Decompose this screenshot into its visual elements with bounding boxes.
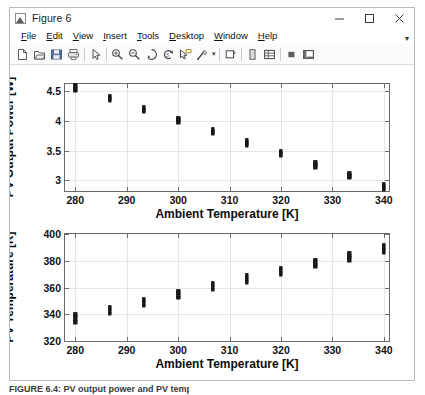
menu-item-edit-rest: dit [53,30,63,41]
zoom-out-icon[interactable] [126,46,143,63]
menu-item-desktop[interactable]: Desktop [164,30,209,42]
data-point-marker [279,149,282,152]
print-figure-icon[interactable] [65,46,82,63]
gridline-vertical [281,84,282,191]
menu-item-tools-rest: ools [142,30,159,41]
axes-pv-temperature[interactable]: PV Temperature [K] Ambient Temperature [… [64,233,390,342]
y-axis-tick [385,234,389,235]
x-axis-tick [178,234,179,238]
x-axis-tick-label: 300 [169,194,187,206]
data-point-marker [348,252,351,255]
y-axis-tick [385,288,389,289]
x-axis-tick-label: 280 [67,194,85,206]
data-point-marker [279,266,282,269]
data-point-marker [314,258,317,261]
y-axis-tick [65,151,69,152]
menu-item-edit[interactable]: Edit [41,30,67,42]
x-axis-tick-label: 340 [375,344,393,356]
gridline-vertical [75,84,76,191]
maximize-button[interactable] [354,8,384,28]
y-axis-tick [65,121,69,122]
axes-top-xlabel: Ambient Temperature [K] [65,207,389,221]
menu-item-insert[interactable]: Insert [98,30,132,42]
save-figure-icon[interactable] [48,46,65,63]
menu-item-desktop-mnemonic: D [169,30,176,41]
figure-window: Figure 6 File Edit View Insert Tools Des… [9,7,415,381]
menu-item-view[interactable]: View [68,30,98,42]
y-axis-tick [385,261,389,262]
gridline-horizontal [65,288,389,289]
axes-bottom-xlabel: Ambient Temperature [K] [65,357,389,371]
chevron-down-icon[interactable]: ▾ [211,46,217,63]
y-axis-tick [65,234,69,235]
gridline-vertical [281,234,282,341]
x-axis-tick [332,187,333,191]
gridline-vertical [230,234,231,341]
gridline-horizontal [65,151,389,152]
edit-plot-pointer-icon[interactable] [87,46,104,63]
figure-caption-clipped: FIGURE 6.4: PV output power and PV tempe… [9,385,189,395]
x-axis-tick-label: 290 [118,344,136,356]
gridline-vertical [332,84,333,191]
menu-item-file-rest: ile [27,30,37,41]
x-axis-tick-label: 310 [221,344,239,356]
gridline-horizontal [65,180,389,181]
x-axis-tick [281,234,282,238]
brush-select-icon[interactable] [194,46,211,63]
window-title: Figure 6 [32,12,71,24]
y-axis-tick [385,91,389,92]
close-button[interactable] [384,8,414,28]
new-figure-icon[interactable] [14,46,31,63]
zoom-in-icon[interactable] [109,46,126,63]
x-axis-tick [384,84,385,88]
axes-top-ylabel: PV Output Power [W] [10,67,16,207]
x-axis-tick [332,234,333,238]
legend-icon[interactable] [261,46,278,63]
gridline-horizontal [65,314,389,315]
open-file-icon[interactable] [31,46,48,63]
menu-item-file[interactable]: File [16,30,41,42]
link-plot-icon[interactable] [222,46,239,63]
y-axis-tick-label: 340 [43,308,61,320]
minimize-button[interactable] [324,8,354,28]
hide-plot-tools-icon[interactable] [283,46,300,63]
figure-canvas: PV Output Power [W] Ambient Temperature … [10,65,414,380]
title-bar: Figure 6 [10,8,414,28]
data-point-marker [348,171,351,174]
pan-icon[interactable] [143,46,160,63]
colorbar-icon[interactable] [244,46,261,63]
gridline-vertical [332,234,333,341]
x-axis-tick [178,84,179,88]
data-point-marker [142,297,145,300]
menu-item-help[interactable]: Help [253,30,283,42]
x-axis-tick-label: 340 [375,194,393,206]
y-axis-tick [65,180,69,181]
toolbar-separator [84,48,85,61]
y-axis-tick [385,151,389,152]
y-axis-tick [385,180,389,181]
y-axis-tick-label: 4 [55,115,61,127]
data-point-marker [176,289,179,292]
menu-overflow-icon[interactable]: ▾ [405,35,409,43]
x-axis-tick [178,337,179,341]
x-axis-tick [127,84,128,88]
axes-pv-output-power[interactable]: PV Output Power [W] Ambient Temperature … [64,83,390,192]
x-axis-tick [230,234,231,238]
x-axis-tick [281,84,282,88]
window-controls [324,8,414,28]
menu-item-window[interactable]: Window [209,30,253,42]
gridline-vertical [127,234,128,341]
data-point-marker [142,105,145,108]
gridline-vertical [75,234,76,341]
menu-item-help-rest: elp [265,30,278,41]
x-axis-tick [230,337,231,341]
menu-item-insert-rest: nsert [106,30,127,41]
show-plot-tools-icon[interactable] [300,46,317,63]
data-point-marker [211,127,214,130]
gridline-horizontal [65,91,389,92]
data-cursor-icon[interactable] [177,46,194,63]
y-axis-tick-label: 3 [55,174,61,186]
menu-item-tools[interactable]: Tools [132,30,164,42]
x-axis-tick-label: 320 [272,194,290,206]
rotate-3d-icon[interactable]: 3 [160,46,177,63]
